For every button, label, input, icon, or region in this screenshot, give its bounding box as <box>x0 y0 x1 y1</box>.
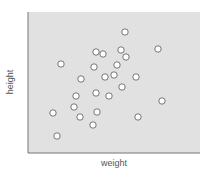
data-point <box>106 93 112 99</box>
data-point <box>58 61 64 67</box>
data-point <box>114 62 120 68</box>
data-point <box>100 51 106 57</box>
data-point <box>73 93 79 99</box>
data-point <box>94 109 100 115</box>
data-point <box>135 114 141 120</box>
data-point <box>102 74 108 80</box>
data-point <box>77 114 83 120</box>
data-point <box>91 64 97 70</box>
x-axis-label: weight <box>28 158 200 168</box>
scatter-chart <box>0 0 207 173</box>
data-point <box>93 49 99 55</box>
data-point <box>54 133 60 139</box>
data-point <box>159 98 165 104</box>
data-point <box>93 90 99 96</box>
data-point <box>122 29 128 35</box>
data-point <box>78 76 84 82</box>
data-point <box>133 74 139 80</box>
data-point <box>111 72 117 78</box>
plot-area <box>28 12 200 153</box>
data-point <box>90 122 96 128</box>
data-point <box>50 110 56 116</box>
data-point <box>71 104 77 110</box>
data-point <box>118 47 124 53</box>
data-point <box>119 84 125 90</box>
data-point <box>155 46 161 52</box>
data-point <box>123 54 129 60</box>
y-axis-label-text: height <box>5 70 15 95</box>
